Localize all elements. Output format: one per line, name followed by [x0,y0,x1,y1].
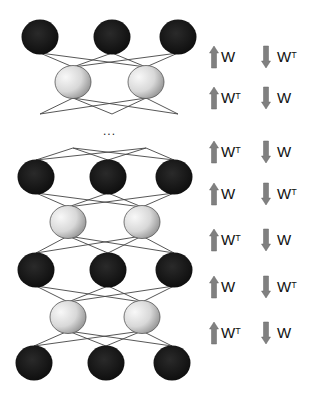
visible-unit [18,160,55,195]
visible-unit [154,346,191,381]
visible-unit [22,20,59,55]
visible-unit [156,160,193,195]
visible-unit [156,253,193,288]
down-weight-label: W [277,325,291,341]
down-arrow-icon [262,46,271,68]
network-units [16,20,197,381]
down-weight-label: WT [277,186,297,202]
up-arrow-icon [210,229,219,251]
up-arrow-icon [210,183,219,205]
ellipsis: ... [103,124,116,138]
hidden-unit [50,206,86,239]
connection-edges [34,53,178,346]
down-arrow-icon [262,322,271,344]
network-diagram [0,0,316,398]
visible-unit [18,253,55,288]
up-arrow-icon [210,46,219,68]
up-weight-label: WT [221,232,241,248]
up-weight-label: W [221,49,235,65]
down-arrow-icon [262,87,271,109]
up-weight-label: W [221,186,235,202]
up-weight-label: WT [221,144,241,160]
hidden-unit [128,66,164,99]
down-arrow-icon [262,276,271,298]
down-weight-label: W [277,144,291,160]
hidden-unit [55,66,91,99]
down-arrow-icon [262,141,271,163]
down-weight-label: WT [277,49,297,65]
up-arrow-icon [210,322,219,344]
hidden-unit [124,301,160,334]
down-weight-label: W [277,232,291,248]
visible-unit [90,253,127,288]
visible-unit [90,160,127,195]
hidden-unit [50,301,86,334]
visible-unit [16,346,53,381]
up-weight-label: W [221,279,235,295]
visible-unit [88,346,125,381]
down-weight-label: WT [277,279,297,295]
down-arrow-icon [262,229,271,251]
up-arrow-icon [210,87,219,109]
visible-unit [94,20,131,55]
up-weight-label: WT [221,325,241,341]
down-arrow-icon [262,183,271,205]
visible-unit [160,20,197,55]
down-weight-label: W [277,90,291,106]
up-arrow-icon [210,276,219,298]
hidden-unit [124,206,160,239]
up-arrow-icon [210,141,219,163]
up-weight-label: WT [221,90,241,106]
